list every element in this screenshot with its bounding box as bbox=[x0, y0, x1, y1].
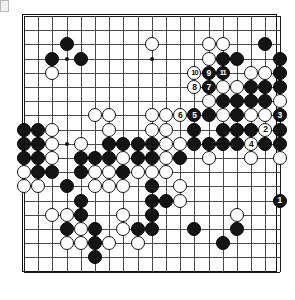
stone-white[interactable] bbox=[173, 137, 187, 151]
stone-white[interactable] bbox=[173, 194, 187, 208]
stone-white[interactable] bbox=[173, 179, 187, 193]
stone-white[interactable] bbox=[74, 236, 88, 250]
stone-black[interactable] bbox=[145, 208, 159, 222]
stone-black[interactable] bbox=[273, 66, 287, 80]
stone-white[interactable] bbox=[202, 52, 216, 66]
stone-move-7[interactable]: 7 bbox=[202, 80, 216, 94]
stone-white[interactable] bbox=[244, 66, 258, 80]
stone-white[interactable] bbox=[116, 179, 130, 193]
stone-white[interactable] bbox=[159, 165, 173, 179]
stone-black[interactable] bbox=[216, 137, 230, 151]
stone-white[interactable] bbox=[159, 151, 173, 165]
stone-black[interactable] bbox=[173, 151, 187, 165]
stone-white[interactable] bbox=[116, 222, 130, 236]
stone-move-3[interactable]: 3 bbox=[273, 108, 287, 122]
stone-black[interactable] bbox=[258, 137, 272, 151]
stone-black[interactable] bbox=[45, 165, 59, 179]
stone-black[interactable] bbox=[244, 94, 258, 108]
stone-white[interactable] bbox=[17, 179, 31, 193]
stone-black[interactable] bbox=[258, 37, 272, 51]
stone-black[interactable] bbox=[116, 165, 130, 179]
stone-white[interactable] bbox=[102, 108, 116, 122]
stone-black[interactable] bbox=[187, 222, 201, 236]
stone-white[interactable] bbox=[273, 94, 287, 108]
stone-black[interactable] bbox=[230, 123, 244, 137]
stone-black[interactable] bbox=[102, 137, 116, 151]
stone-black[interactable] bbox=[74, 165, 88, 179]
stone-white[interactable] bbox=[102, 236, 116, 250]
stone-black[interactable] bbox=[60, 179, 74, 193]
stone-white[interactable] bbox=[74, 137, 88, 151]
stone-black[interactable] bbox=[187, 137, 201, 151]
stone-white[interactable] bbox=[145, 123, 159, 137]
stone-white[interactable] bbox=[45, 66, 59, 80]
stone-white[interactable] bbox=[45, 208, 59, 222]
stone-black[interactable] bbox=[17, 137, 31, 151]
stone-white[interactable] bbox=[74, 222, 88, 236]
stone-white[interactable] bbox=[216, 80, 230, 94]
stone-move-11[interactable]: 11 bbox=[216, 66, 230, 80]
stone-white[interactable] bbox=[159, 108, 173, 122]
stone-black[interactable] bbox=[216, 52, 230, 66]
stone-black[interactable] bbox=[17, 123, 31, 137]
stone-black[interactable] bbox=[273, 123, 287, 137]
stone-black[interactable] bbox=[116, 137, 130, 151]
stone-black[interactable] bbox=[31, 151, 45, 165]
stone-black[interactable] bbox=[273, 80, 287, 94]
stone-black[interactable] bbox=[202, 137, 216, 151]
stone-black[interactable] bbox=[216, 236, 230, 250]
stone-white[interactable] bbox=[258, 66, 272, 80]
stone-white[interactable] bbox=[45, 137, 59, 151]
stone-white[interactable] bbox=[244, 108, 258, 122]
stone-black[interactable] bbox=[60, 37, 74, 51]
stone-black[interactable] bbox=[102, 151, 116, 165]
stone-white[interactable] bbox=[31, 179, 45, 193]
stone-black[interactable] bbox=[230, 108, 244, 122]
stone-black[interactable] bbox=[258, 94, 272, 108]
stone-black[interactable] bbox=[74, 52, 88, 66]
stone-white[interactable] bbox=[116, 151, 130, 165]
stone-white[interactable] bbox=[88, 179, 102, 193]
stone-black[interactable] bbox=[31, 165, 45, 179]
stone-black[interactable] bbox=[131, 222, 145, 236]
stone-black[interactable] bbox=[145, 222, 159, 236]
stone-black[interactable] bbox=[45, 52, 59, 66]
stone-black[interactable] bbox=[74, 208, 88, 222]
stone-black[interactable] bbox=[88, 250, 102, 264]
go-board[interactable]: 1091187653241 bbox=[16, 8, 286, 280]
stone-white[interactable] bbox=[45, 151, 59, 165]
stone-white[interactable] bbox=[60, 236, 74, 250]
stone-move-1[interactable]: 1 bbox=[273, 194, 287, 208]
stone-black[interactable] bbox=[244, 123, 258, 137]
stone-white[interactable] bbox=[45, 123, 59, 137]
stone-black[interactable] bbox=[273, 52, 287, 66]
stone-black[interactable] bbox=[230, 52, 244, 66]
stone-white[interactable] bbox=[159, 137, 173, 151]
stone-black[interactable] bbox=[216, 94, 230, 108]
stone-white[interactable] bbox=[131, 165, 145, 179]
stone-white[interactable] bbox=[202, 151, 216, 165]
stone-black[interactable] bbox=[187, 123, 201, 137]
stone-move-10[interactable]: 10 bbox=[187, 66, 201, 80]
stone-white[interactable] bbox=[88, 165, 102, 179]
stone-black[interactable] bbox=[17, 151, 31, 165]
stone-white[interactable] bbox=[60, 208, 74, 222]
stone-white[interactable] bbox=[116, 208, 130, 222]
stone-black[interactable] bbox=[60, 222, 74, 236]
stone-white[interactable] bbox=[230, 208, 244, 222]
stone-move-9[interactable]: 9 bbox=[202, 66, 216, 80]
stone-black[interactable] bbox=[230, 94, 244, 108]
stone-black[interactable] bbox=[202, 108, 216, 122]
stone-move-8[interactable]: 8 bbox=[187, 80, 201, 94]
stone-black[interactable] bbox=[31, 137, 45, 151]
stone-black[interactable] bbox=[216, 123, 230, 137]
stone-white[interactable] bbox=[230, 80, 244, 94]
stone-white[interactable] bbox=[159, 123, 173, 137]
stone-black[interactable] bbox=[131, 151, 145, 165]
stone-black[interactable] bbox=[145, 151, 159, 165]
stone-black[interactable] bbox=[145, 179, 159, 193]
stone-move-2[interactable]: 2 bbox=[258, 123, 272, 137]
stone-white[interactable] bbox=[131, 236, 145, 250]
stone-move-6[interactable]: 6 bbox=[173, 108, 187, 122]
stone-black[interactable] bbox=[88, 151, 102, 165]
